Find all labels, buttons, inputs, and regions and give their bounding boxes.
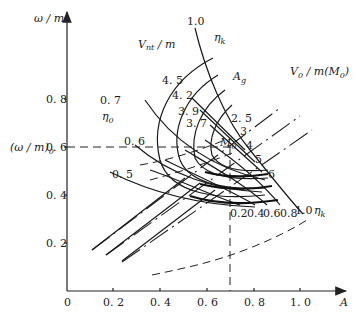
performance-diagram: ω / m A 0 0. 2 0. 4 0. 6 0. 8 1. 0 0. 2 …	[0, 0, 358, 332]
ag-label-4: 4	[246, 139, 253, 152]
etak-label-0.2: 0.2	[230, 207, 248, 220]
ag-label-2.5: 2. 5	[231, 112, 252, 125]
etak-bottom-label: ηk	[314, 204, 326, 219]
etak-label-0.4: 0.4	[247, 207, 265, 220]
eta0-label-0.6: 0. 6	[124, 135, 145, 148]
vnt-label-4.2: 4. 2	[172, 89, 193, 102]
lower-dashed-curve	[152, 218, 310, 275]
omega-m0-label: (ω / m)0	[10, 141, 54, 156]
y-tick-0.4: 0. 4	[46, 189, 67, 202]
x-tick-0.4: 0. 4	[150, 296, 171, 309]
eta0-label: η0	[102, 110, 114, 125]
ag-label: Ag	[232, 70, 246, 85]
vnt-label-3.7: 3. 7	[186, 117, 207, 130]
y-tick-0.8: 0. 8	[46, 93, 67, 106]
ag-label-3: 3	[240, 125, 247, 138]
ag-label-6: 6	[268, 168, 275, 181]
etak-label-1.0: 1.0	[295, 204, 313, 217]
y-tick-0.2: 0. 2	[46, 237, 67, 250]
v0-label: V0 / m(M0)	[290, 65, 349, 80]
etak-label-0.6: 0.6	[263, 207, 281, 220]
x-tick-0.8: 0. 8	[244, 296, 265, 309]
etak-top-label: ηk	[214, 31, 226, 46]
ag-label-5: 5	[255, 153, 262, 166]
etak-top-value: 1.0	[187, 15, 205, 28]
eta0-label-0.7: 0. 7	[100, 94, 121, 107]
x-tick-0: 0	[64, 296, 71, 309]
x-tick-0.6: 0. 6	[197, 296, 218, 309]
x-axis-label: A	[339, 296, 348, 309]
eta0-label-0.5: 0. 5	[112, 168, 133, 181]
axes	[64, 12, 346, 291]
vnt-label-4.5: 4. 5	[162, 74, 183, 87]
x-tick-1.0: 1. 0	[290, 296, 311, 309]
y-axis-label: ω / m	[34, 12, 64, 25]
x-tick-0.2: 0. 2	[103, 296, 124, 309]
vnt-label: Vnt / m	[138, 38, 175, 52]
